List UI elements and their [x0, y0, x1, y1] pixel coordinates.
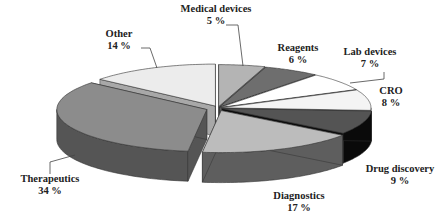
label-other: Other 14 % — [96, 28, 142, 52]
label-cro: CRO 8 % — [371, 85, 411, 109]
label-lab-devices: Lab devices 7 % — [337, 46, 403, 70]
leader-line — [141, 48, 157, 68]
label-therapeutics: Therapeutics 34 % — [14, 173, 86, 197]
label-reagents: Reagents 6 % — [268, 42, 328, 66]
label-medical-devices: Medical devices 5 % — [166, 3, 266, 27]
label-drug-discovery: Drug discovery 9 % — [355, 163, 445, 187]
leader-line — [350, 72, 384, 83]
leader-line — [226, 25, 243, 66]
label-diagnostics: Diagnostics 17 % — [264, 190, 334, 214]
